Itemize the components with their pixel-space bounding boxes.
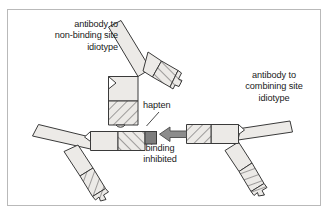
ab-left-arm-upper — [33, 125, 93, 150]
label-combining-site-idiotype: antibody to combining site idiotype — [226, 70, 322, 104]
label-hapten: hapten — [143, 100, 193, 111]
ab-right-hinge — [211, 125, 239, 144]
ab-right-fab-hatched-combining-site — [187, 125, 212, 144]
antibody-combining-site-idiotype — [187, 121, 293, 196]
label-non-binding-site-idiotype: antibody to non-binding site idiotype — [14, 19, 118, 53]
figure-root: antibody to non-binding site idiotype an… — [0, 0, 330, 219]
hapten-leader-line — [147, 112, 160, 126]
ab-top-fc-hatched — [109, 101, 139, 125]
label-binding-inhibited: binding inhibited — [124, 143, 196, 166]
ab-right-arm-upper — [238, 121, 293, 140]
ab-left-hinge — [91, 132, 119, 151]
ab-top-fc-bump — [116, 125, 125, 127]
binding-inhibited-arrow — [160, 127, 187, 142]
